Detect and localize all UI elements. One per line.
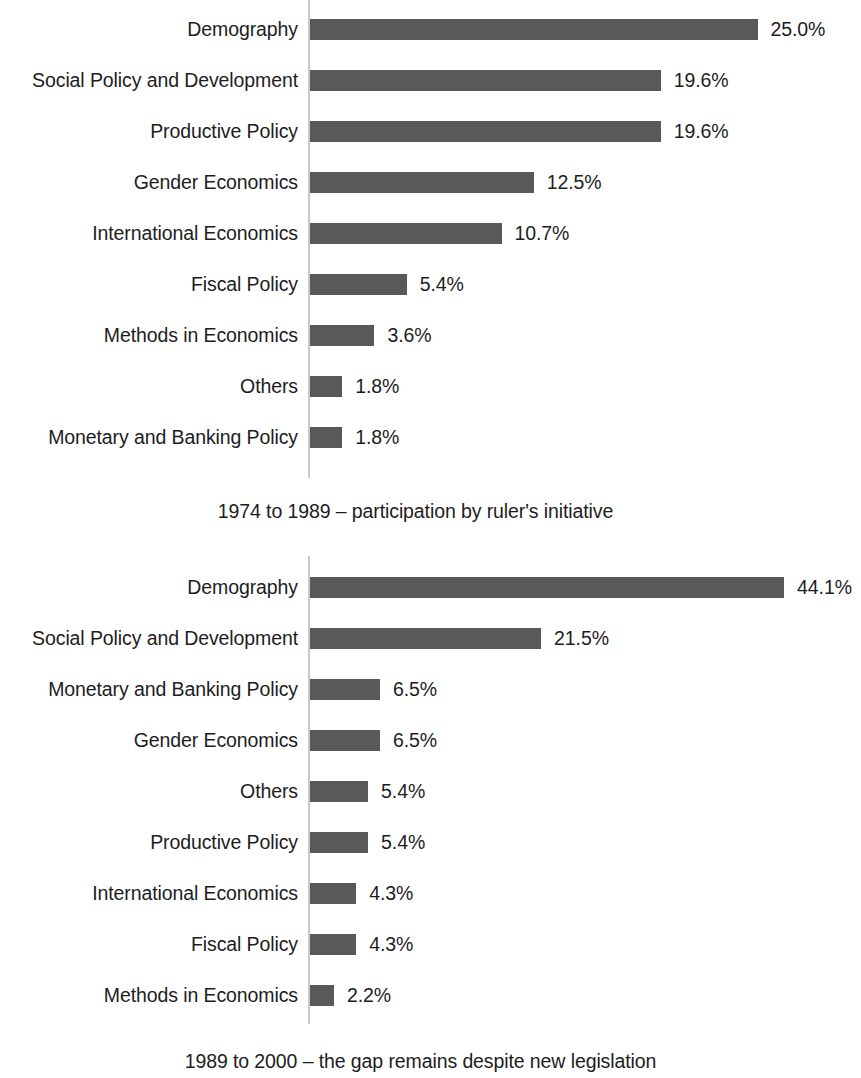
- bar-row: International Economics10.7%: [0, 208, 861, 259]
- bar-row: Monetary and Banking Policy6.5%: [0, 664, 861, 715]
- bar-and-value: 1.8%: [310, 412, 399, 463]
- bar-row: Demography44.1%: [0, 562, 861, 613]
- bar: [310, 274, 407, 295]
- bar-value-label: 25.0%: [771, 19, 826, 40]
- category-label: Methods in Economics: [104, 970, 298, 1021]
- bar: [310, 376, 342, 397]
- bar-and-value: 4.3%: [310, 919, 413, 970]
- bar-and-value: 19.6%: [310, 55, 729, 106]
- bar: [310, 679, 380, 700]
- bar-and-value: 25.0%: [310, 4, 825, 55]
- bar: [310, 934, 356, 955]
- bar: [310, 985, 334, 1006]
- chart-1-plot-area: Demography25.0%Social Policy and Develop…: [0, 0, 861, 482]
- bar-row: Social Policy and Development19.6%: [0, 55, 861, 106]
- category-label: Methods in Economics: [104, 310, 298, 361]
- bar-and-value: 19.6%: [310, 106, 729, 157]
- bar-value-label: 5.4%: [381, 781, 425, 802]
- chart-1989-2000: Demography44.1%Social Policy and Develop…: [0, 548, 861, 1073]
- category-label: Demography: [187, 562, 298, 613]
- category-label: International Economics: [92, 868, 298, 919]
- category-label: Gender Economics: [134, 157, 298, 208]
- bar-and-value: 5.4%: [310, 817, 425, 868]
- bar-row: Gender Economics6.5%: [0, 715, 861, 766]
- bar-row: Demography25.0%: [0, 4, 861, 55]
- bar-row: Others5.4%: [0, 766, 861, 817]
- bar-value-label: 4.3%: [369, 883, 413, 904]
- category-label: Demography: [187, 4, 298, 55]
- category-label: Fiscal Policy: [191, 259, 298, 310]
- bar-row: International Economics4.3%: [0, 868, 861, 919]
- bar-and-value: 44.1%: [310, 562, 852, 613]
- bar-and-value: 5.4%: [310, 766, 425, 817]
- bar-value-label: 5.4%: [381, 832, 425, 853]
- category-label: Others: [240, 361, 298, 412]
- figure-page: Demography25.0%Social Policy and Develop…: [0, 0, 861, 1078]
- bar: [310, 577, 784, 598]
- bar-value-label: 1.8%: [355, 427, 399, 448]
- bar-value-label: 2.2%: [347, 985, 391, 1006]
- category-label: Monetary and Banking Policy: [48, 664, 298, 715]
- bar-value-label: 1.8%: [355, 376, 399, 397]
- bar-value-label: 19.6%: [674, 121, 729, 142]
- bar-row: Monetary and Banking Policy1.8%: [0, 412, 861, 463]
- bar-row: Gender Economics12.5%: [0, 157, 861, 208]
- chart-2-plot-area: Demography44.1%Social Policy and Develop…: [0, 548, 861, 1040]
- bar: [310, 883, 356, 904]
- bar-and-value: 21.5%: [310, 613, 609, 664]
- bar-value-label: 3.6%: [387, 325, 431, 346]
- bar-value-label: 5.4%: [420, 274, 464, 295]
- bar-and-value: 1.8%: [310, 361, 399, 412]
- bar-row: Methods in Economics3.6%: [0, 310, 861, 361]
- bar: [310, 121, 661, 142]
- bar-and-value: 6.5%: [310, 715, 437, 766]
- bar-value-label: 12.5%: [547, 172, 602, 193]
- category-label: Productive Policy: [150, 106, 298, 157]
- bar: [310, 172, 534, 193]
- bar-value-label: 6.5%: [393, 730, 437, 751]
- bar-value-label: 19.6%: [674, 70, 729, 91]
- bar-and-value: 12.5%: [310, 157, 601, 208]
- bar-and-value: 5.4%: [310, 259, 464, 310]
- bar: [310, 19, 758, 40]
- bar: [310, 70, 661, 91]
- bar-value-label: 6.5%: [393, 679, 437, 700]
- bar-row: Productive Policy19.6%: [0, 106, 861, 157]
- bar-value-label: 44.1%: [797, 577, 852, 598]
- chart-2-bar-rows: Demography44.1%Social Policy and Develop…: [0, 562, 861, 1021]
- bar-and-value: 10.7%: [310, 208, 569, 259]
- chart-1-bar-rows: Demography25.0%Social Policy and Develop…: [0, 4, 861, 463]
- category-label: Social Policy and Development: [32, 613, 298, 664]
- category-label: Gender Economics: [134, 715, 298, 766]
- bar-and-value: 4.3%: [310, 868, 413, 919]
- bar: [310, 325, 374, 346]
- chart-2-caption: 1989 to 2000 – the gap remains despite n…: [0, 1050, 861, 1073]
- bar-value-label: 10.7%: [515, 223, 570, 244]
- bar-row: Others1.8%: [0, 361, 861, 412]
- bar-and-value: 6.5%: [310, 664, 437, 715]
- bar: [310, 223, 502, 244]
- bar: [310, 628, 541, 649]
- bar-row: Social Policy and Development21.5%: [0, 613, 861, 664]
- bar: [310, 781, 368, 802]
- bar-row: Fiscal Policy5.4%: [0, 259, 861, 310]
- chart-1974-1989: Demography25.0%Social Policy and Develop…: [0, 0, 861, 523]
- bar: [310, 427, 342, 448]
- bar-and-value: 2.2%: [310, 970, 391, 1021]
- category-label: Productive Policy: [150, 817, 298, 868]
- bar-value-label: 4.3%: [369, 934, 413, 955]
- bar-value-label: 21.5%: [554, 628, 609, 649]
- bar-and-value: 3.6%: [310, 310, 431, 361]
- bar: [310, 730, 380, 751]
- category-label: International Economics: [92, 208, 298, 259]
- chart-1-caption: 1974 to 1989 – participation by ruler's …: [0, 500, 861, 523]
- category-label: Monetary and Banking Policy: [48, 412, 298, 463]
- category-label: Social Policy and Development: [32, 55, 298, 106]
- bar-row: Methods in Economics2.2%: [0, 970, 861, 1021]
- bar-row: Productive Policy5.4%: [0, 817, 861, 868]
- bar-row: Fiscal Policy4.3%: [0, 919, 861, 970]
- bar: [310, 832, 368, 853]
- category-label: Others: [240, 766, 298, 817]
- category-label: Fiscal Policy: [191, 919, 298, 970]
